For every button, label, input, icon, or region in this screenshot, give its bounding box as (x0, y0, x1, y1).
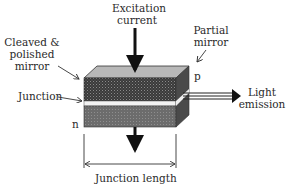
label-n-region: n (72, 118, 79, 130)
cleaved-text-3: mirror (4, 60, 60, 72)
label-cleaved-mirror: Cleaved & polished mirror (4, 36, 60, 72)
excitation-text-2: current (112, 14, 162, 26)
label-junction-length: Junction length (95, 172, 175, 184)
partial-text-2: mirror (190, 36, 232, 48)
label-junction: Junction (18, 90, 62, 102)
cleaved-mirror-pointer (58, 66, 79, 79)
excitation-text-1: Excitation (112, 2, 162, 14)
cleaved-text-2: polished (4, 48, 60, 60)
light-text-2: emission (236, 98, 288, 110)
junction-layer (84, 101, 176, 106)
light-text-1: Light (236, 86, 288, 98)
n-layer (84, 106, 176, 127)
label-light-emission: Light emission (236, 86, 288, 110)
label-partial-mirror: Partial mirror (190, 24, 232, 48)
label-p-region: p (194, 70, 201, 82)
p-layer (84, 78, 176, 101)
partial-text-1: Partial (190, 24, 232, 36)
partial-mirror-pointer (197, 50, 206, 62)
light-emission-arrow (183, 89, 241, 103)
cleaved-text-1: Cleaved & (4, 36, 60, 48)
label-excitation-current: Excitation current (112, 2, 162, 26)
